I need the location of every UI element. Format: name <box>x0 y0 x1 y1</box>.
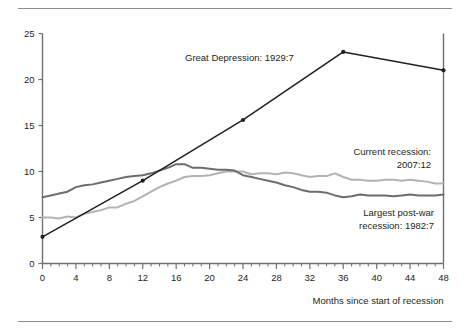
x-tick-label: 8 <box>107 272 112 283</box>
annotations-layer: Great Depression: 1929:7Current recessio… <box>185 52 434 231</box>
y-tick-label: 25 <box>24 28 35 39</box>
x-tick-label: 48 <box>438 272 449 283</box>
series-marker <box>40 235 44 239</box>
annotation-post-war-recession: Largest post-warrecession: 1982:7 <box>359 207 434 231</box>
y-tick-label: 10 <box>24 166 35 177</box>
x-tick-label: 12 <box>137 272 148 283</box>
annotation-great-depression: Great Depression: 1929:7 <box>185 52 294 63</box>
series-marker <box>241 118 245 122</box>
y-tick-label: 15 <box>24 120 35 131</box>
x-tick-label: 44 <box>405 272 416 283</box>
annotation-line: 2007:12 <box>397 159 431 170</box>
x-tick-label: 24 <box>238 272 249 283</box>
x-axis-title: Months since start of recession <box>313 295 444 306</box>
x-tick-label: 28 <box>271 272 282 283</box>
series-marker <box>341 50 345 54</box>
x-tick-label: 16 <box>171 272 182 283</box>
line-chart-figure: 051015202504812162024283236404448 Great … <box>0 0 466 328</box>
annotation-line: Great Depression: 1929:7 <box>185 52 294 63</box>
chart-canvas: 051015202504812162024283236404448 Great … <box>0 0 466 328</box>
x-tick-label: 20 <box>204 272 215 283</box>
series-marker <box>141 179 145 183</box>
annotation-line: Largest post-war <box>363 207 434 218</box>
annotation-current-recession: Current recession:2007:12 <box>353 146 431 170</box>
y-tick-label: 0 <box>29 258 34 269</box>
x-tick-label: 36 <box>338 272 349 283</box>
x-tick-label: 0 <box>40 272 45 283</box>
axis-title-layer: Months since start of recession <box>313 295 444 306</box>
annotation-line: Current recession: <box>353 146 431 157</box>
x-tick-label: 32 <box>305 272 316 283</box>
y-tick-label: 5 <box>29 212 34 223</box>
x-tick-label: 4 <box>73 272 78 283</box>
series-marker <box>441 68 445 72</box>
annotation-line: recession: 1982:7 <box>359 220 434 231</box>
y-tick-label: 20 <box>24 74 35 85</box>
x-tick-label: 40 <box>371 272 382 283</box>
